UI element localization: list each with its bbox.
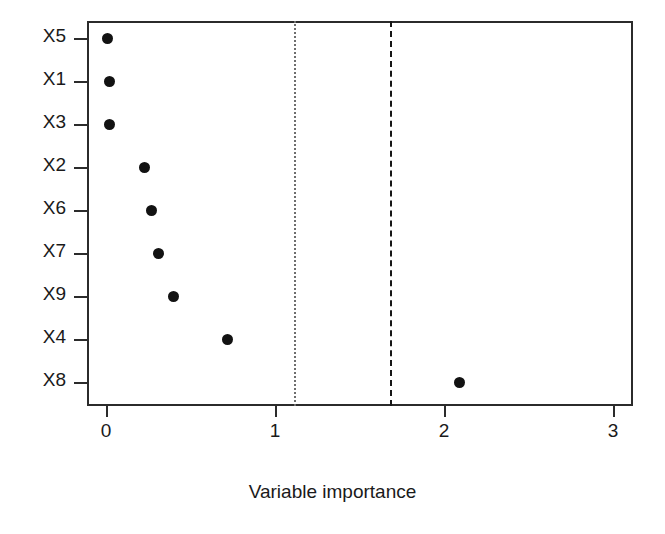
y-tick-X4	[74, 339, 87, 341]
data-point	[139, 162, 150, 173]
x-tick-2	[444, 406, 446, 417]
x-tick-1	[275, 406, 277, 417]
data-point	[168, 291, 179, 302]
threshold-dotted-line	[294, 21, 296, 406]
data-point	[153, 248, 164, 259]
y-tick-label-X5: X5	[0, 25, 66, 47]
y-tick-label-X1: X1	[0, 68, 66, 90]
y-tick-label-X6: X6	[0, 197, 66, 219]
x-tick-label-2: 2	[414, 420, 474, 442]
x-tick-label-1: 1	[245, 420, 305, 442]
plot-area	[87, 21, 633, 406]
x-tick-label-3: 3	[583, 420, 643, 442]
y-tick-label-X3: X3	[0, 111, 66, 133]
data-point	[454, 377, 465, 388]
x-tick-label-0: 0	[76, 420, 136, 442]
data-point	[102, 33, 113, 44]
y-tick-X3	[74, 124, 87, 126]
y-tick-X2	[74, 167, 87, 169]
x-axis-title: Variable importance	[0, 481, 665, 503]
y-tick-X1	[74, 81, 87, 83]
data-point	[104, 76, 115, 87]
threshold-dashed-line	[390, 21, 392, 406]
data-point	[104, 119, 115, 130]
y-tick-label-X4: X4	[0, 326, 66, 348]
y-tick-X7	[74, 253, 87, 255]
y-tick-X6	[74, 210, 87, 212]
y-tick-X9	[74, 296, 87, 298]
x-tick-3	[613, 406, 615, 417]
x-tick-0	[106, 406, 108, 417]
y-tick-X8	[74, 382, 87, 384]
y-tick-label-X2: X2	[0, 154, 66, 176]
variable-importance-chart: X5X1X3X2X6X7X9X4X8 0123 Variable importa…	[0, 0, 665, 534]
y-tick-label-X8: X8	[0, 369, 66, 391]
y-tick-label-X7: X7	[0, 240, 66, 262]
y-tick-X5	[74, 38, 87, 40]
y-tick-label-X9: X9	[0, 283, 66, 305]
data-point	[146, 205, 157, 216]
data-point	[222, 334, 233, 345]
